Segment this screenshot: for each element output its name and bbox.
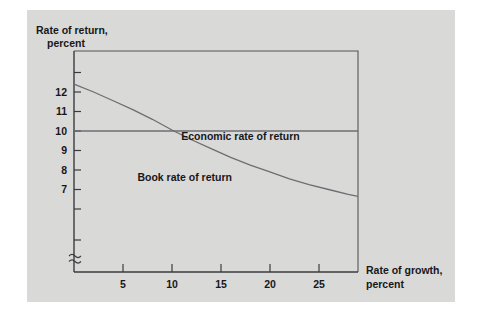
annotation-book-rate-of-return: Book rate of return bbox=[137, 171, 232, 183]
x-tick-label-15: 15 bbox=[215, 278, 227, 290]
x-tick-label-20: 20 bbox=[264, 278, 276, 290]
x-axis-title-line2: percent bbox=[366, 278, 404, 290]
x-tick-label-10: 10 bbox=[166, 278, 178, 290]
y-tick-label-7: 7 bbox=[61, 183, 67, 195]
y-tick-label-9: 9 bbox=[61, 144, 67, 156]
y-tick-label-8: 8 bbox=[61, 164, 67, 176]
annotation-economic-rate-of-return: Economic rate of return bbox=[181, 130, 299, 142]
y-axis-ticks bbox=[74, 73, 81, 241]
x-axis-ticks bbox=[123, 264, 319, 272]
x-axis-title-line1: Rate of growth, bbox=[366, 264, 442, 276]
y-tick-label-11: 11 bbox=[56, 105, 67, 117]
y-tick-label-10: 10 bbox=[55, 125, 67, 137]
y-axis-title-line2: percent bbox=[47, 37, 85, 49]
y-tick-label-12: 12 bbox=[55, 86, 67, 98]
chart-canvas: Rate of return, percent Rate of growth, … bbox=[0, 0, 479, 322]
plot-frame bbox=[74, 51, 358, 272]
x-tick-label-5: 5 bbox=[120, 278, 126, 290]
y-axis-break-icon bbox=[69, 254, 81, 263]
x-tick-label-25: 25 bbox=[313, 278, 325, 290]
y-axis-title-line1: Rate of return, bbox=[36, 24, 108, 36]
